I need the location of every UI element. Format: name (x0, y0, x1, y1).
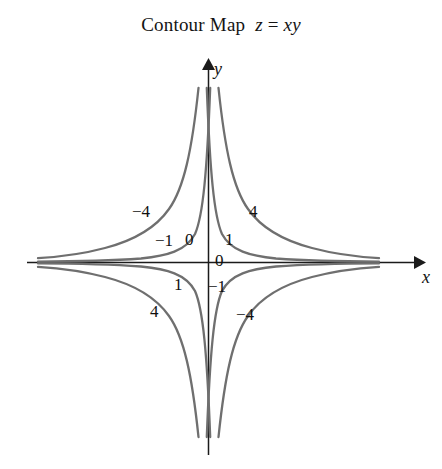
contour-label-4-upper-right: 4 (249, 203, 258, 220)
y-axis-label: y (214, 59, 222, 80)
contour-label-neg1-upper-left: −1 (155, 232, 173, 249)
contour-label-neg1-lower-right: −1 (208, 278, 226, 295)
contour-curve-neg4-upper-left (38, 88, 199, 258)
contour-label-0-x-axis: 0 (215, 252, 224, 269)
contour-label-0-y-axis: 0 (185, 231, 194, 248)
contour-label-4-lower-left: 4 (150, 303, 159, 320)
contour-label-1-lower-left: 1 (174, 276, 183, 293)
contour-curve-4-upper-right (219, 88, 380, 258)
contour-label-neg4-upper-left: −4 (132, 203, 150, 220)
contour-label-1-upper-right: 1 (225, 231, 234, 248)
contour-map-figure: Contour Map z = xy y x −4 4 −1 0 1 0 (0, 0, 442, 469)
contour-label-neg4-lower-right: −4 (236, 306, 254, 323)
contour-curve-neg4-lower-right (219, 267, 380, 437)
x-axis-label: x (422, 267, 430, 288)
